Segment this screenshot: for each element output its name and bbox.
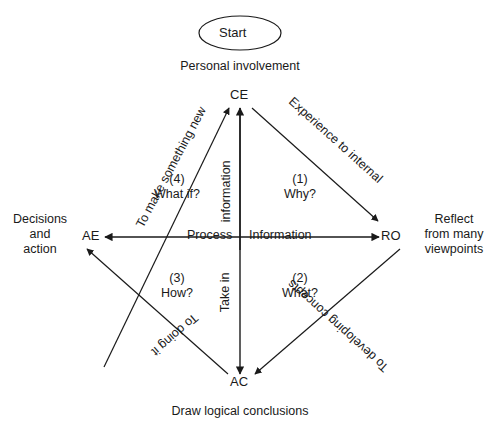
outer-label-left-line2: and (6, 227, 74, 242)
quadrant-3-question: How? (141, 286, 213, 301)
quadrant-1-question: Why? (264, 187, 336, 202)
axis-label-process: Process (187, 228, 232, 243)
outer-label-right-line2: from many (417, 227, 491, 242)
start-label: Start (219, 25, 246, 40)
quadrant-label-4: (4) What if? (141, 172, 213, 202)
quadrant-label-1: (1) Why? (264, 172, 336, 202)
outer-label-right-line3: viewpoints (417, 242, 491, 257)
node-ro: RO (381, 228, 401, 243)
quadrant-label-3: (3) How? (141, 271, 213, 301)
axis-label-vertical-information: information (219, 160, 234, 222)
outer-label-top: Personal involvement (170, 59, 310, 74)
outer-label-right: Reflect from many viewpoints (417, 212, 491, 256)
outer-label-bottom: Draw logical conclusions (160, 404, 320, 419)
quadrant-1-number: (1) (264, 172, 336, 187)
outer-label-left-line3: action (6, 242, 74, 257)
quadrant-2-number: (2) (264, 271, 336, 286)
outer-label-left-line1: Decisions (6, 212, 74, 227)
axis-label-vertical-take-in: Take in (218, 273, 233, 313)
outer-label-left: Decisions and action (6, 212, 74, 256)
axis-label-information: Information (249, 228, 312, 243)
quadrant-label-2: (2) What? (264, 271, 336, 301)
node-ce: CE (230, 87, 248, 102)
diagram-canvas: Start Personal involvement CE AE RO AC D… (0, 0, 495, 432)
node-ae: AE (82, 228, 100, 243)
quadrant-2-question: What? (264, 286, 336, 301)
quadrant-3-number: (3) (141, 271, 213, 286)
quadrant-4-number: (4) (141, 172, 213, 187)
outer-label-right-line1: Reflect (417, 212, 491, 227)
node-ac: AC (230, 374, 248, 389)
quadrant-4-question: What if? (141, 187, 213, 202)
